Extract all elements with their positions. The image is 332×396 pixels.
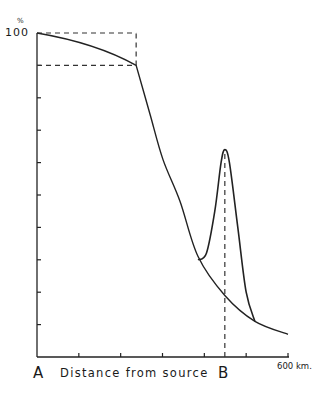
main-decay-curve — [37, 33, 288, 334]
secondary-peak-curve — [198, 150, 255, 322]
y-top-tick-label: 100 — [5, 26, 29, 39]
x-end-tick-label: 600 km. — [277, 361, 312, 371]
point-a-label: A — [33, 364, 43, 382]
x-axis-title: Distance from source — [60, 366, 209, 380]
point-b-label: B — [218, 364, 228, 382]
chart-canvas — [0, 0, 332, 396]
dashed-reference-lines — [37, 33, 225, 357]
y-unit-label: % — [17, 17, 24, 25]
